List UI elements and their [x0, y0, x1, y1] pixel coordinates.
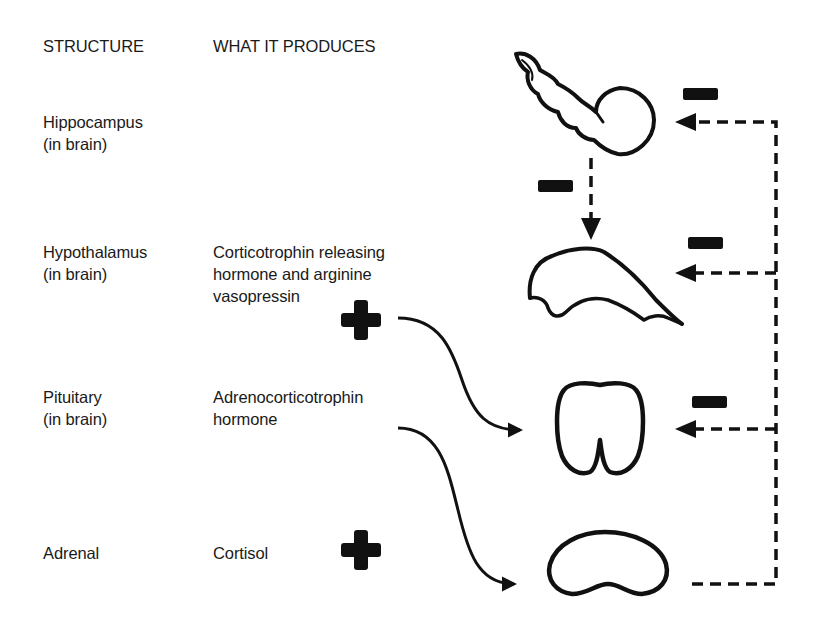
minus-icon-pituitary-feedback	[692, 396, 727, 408]
feedback-arrowhead-hippocampus	[675, 113, 696, 131]
negative-feedback-loop	[690, 122, 776, 584]
minus-icon-hippocampus-feedback	[683, 88, 718, 100]
minus-icon-hypothalamus-feedback	[688, 237, 723, 249]
pituitary-icon	[557, 383, 643, 473]
plus-icon-cortisol	[341, 530, 381, 570]
hypothalamus-icon	[530, 249, 682, 324]
feedback-arrowhead-pituitary	[675, 420, 696, 438]
hippocampus-icon	[516, 54, 654, 155]
inhibitory-arrowhead-hypothalamus	[581, 218, 601, 240]
stimulatory-arrow-hypothalamus-to-pituitary	[398, 318, 520, 430]
hpa-axis-diagram	[0, 0, 826, 623]
plus-icon-hypothalamus-output	[341, 300, 381, 340]
adrenal-icon	[549, 532, 667, 594]
feedback-arrowhead-hypothalamus	[675, 264, 696, 282]
stimulatory-arrow-pituitary-to-adrenal	[398, 428, 514, 584]
minus-icon-hippocampus-to-hypothalamus	[538, 180, 573, 192]
